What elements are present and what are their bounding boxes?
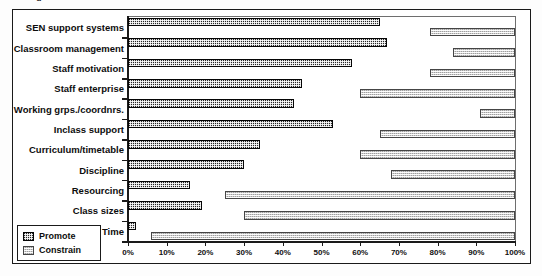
- x-tick-80: [438, 241, 439, 246]
- bar-constrain-9: [244, 211, 515, 220]
- bar-constrain-6: [360, 150, 515, 159]
- x-tick-label-20: 20%: [197, 248, 213, 257]
- x-tick-90: [476, 241, 477, 246]
- x-tick-50: [322, 241, 323, 246]
- dark-checker-swatch-icon: [23, 232, 34, 241]
- bar-promote-10: [128, 222, 136, 231]
- bar-constrain-8: [225, 191, 515, 200]
- category-label-3: Staff enterprise: [54, 83, 124, 94]
- bar-promote-6: [128, 140, 260, 149]
- category-label-8: Resourcing: [72, 185, 124, 196]
- legend-item-promote: Promote: [23, 229, 100, 243]
- category-label-0: SEN support systems: [26, 22, 124, 33]
- legend-item-constrain: Constrain: [23, 243, 100, 257]
- legend-label-promote: Promote: [39, 231, 76, 241]
- legend-label-constrain: Constrain: [39, 245, 81, 255]
- category-label-2: Staff motivation: [52, 62, 124, 73]
- x-tick-60: [360, 241, 361, 246]
- bar-constrain-10: [151, 232, 515, 241]
- bar-promote-4: [128, 99, 294, 108]
- x-tick-label-70: 70%: [391, 248, 407, 257]
- bar-constrain-1: [453, 48, 515, 57]
- bar-constrain-4: [480, 109, 515, 118]
- x-tick-label-100: 100%: [505, 248, 525, 257]
- bar-constrain-0: [430, 28, 515, 37]
- x-tick-label-10: 10%: [159, 248, 175, 257]
- x-tick-label-50: 50%: [313, 248, 329, 257]
- x-tick-70: [399, 241, 400, 246]
- figure-root: g 0%10%20%30%40%50%60%70%80%90%100% SEN …: [0, 0, 542, 276]
- category-label-7: Discipline: [79, 164, 124, 175]
- plot-right-edge: [515, 16, 516, 242]
- plot-top-edge: [127, 16, 516, 17]
- chart-legend: Promote Constrain: [17, 225, 101, 261]
- x-tick-10: [167, 241, 168, 246]
- x-tick-30: [244, 241, 245, 246]
- x-tick-label-80: 80%: [430, 248, 446, 257]
- x-tick-40: [283, 241, 284, 246]
- x-tick-label-90: 90%: [468, 248, 484, 257]
- bar-promote-3: [128, 79, 302, 88]
- bar-promote-0: [128, 18, 380, 27]
- category-label-4: Working grps./coordnrs.: [14, 103, 124, 114]
- bar-constrain-7: [391, 170, 515, 179]
- category-label-5: Inclass support: [54, 124, 124, 135]
- bar-promote-9: [128, 201, 202, 210]
- bar-promote-5: [128, 120, 333, 129]
- category-label-9: Class sizes: [73, 205, 124, 216]
- light-checker-swatch-icon: [23, 246, 34, 255]
- x-tick-label-40: 40%: [275, 248, 291, 257]
- x-tick-label-0: 0%: [122, 248, 134, 257]
- bar-constrain-3: [360, 89, 515, 98]
- x-tick-label-60: 60%: [352, 248, 368, 257]
- x-tick-0: [128, 241, 129, 246]
- y-tick-10: [122, 241, 128, 243]
- category-label-10: Time: [102, 225, 124, 236]
- bar-promote-7: [128, 160, 244, 169]
- x-tick-20: [205, 241, 206, 246]
- bar-constrain-2: [430, 69, 515, 78]
- bar-constrain-5: [380, 130, 515, 139]
- category-label-6: Curriculum/timetable: [29, 144, 124, 155]
- bar-promote-1: [128, 38, 387, 47]
- bar-promote-2: [128, 59, 352, 68]
- bar-promote-8: [128, 181, 190, 190]
- x-tick-100: [515, 241, 516, 246]
- x-tick-label-30: 30%: [236, 248, 252, 257]
- category-label-1: Classroom management: [14, 42, 124, 53]
